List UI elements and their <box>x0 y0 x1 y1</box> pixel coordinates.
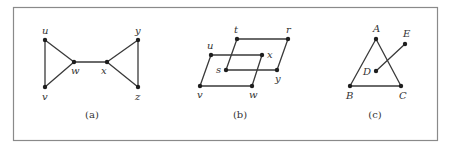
graph-figure: uvwxyz(a) truxsyvw(b) AEDBC(c) <box>0 0 453 149</box>
vertex-v-dot <box>198 84 202 88</box>
vertex-label: A <box>372 23 380 34</box>
vertex-s-dot <box>224 68 228 72</box>
vertex-r-dot <box>286 37 290 41</box>
vertex-w-dot <box>250 84 254 88</box>
edge-v-w <box>45 62 74 87</box>
vertex-x-dot <box>260 53 264 57</box>
edge-x-y <box>107 40 138 62</box>
vertex-label: x <box>267 49 273 60</box>
vertex-label: s <box>216 64 221 75</box>
edge-C-A <box>376 39 401 86</box>
vertex-label: t <box>234 24 239 35</box>
vertex-v-dot <box>43 85 47 89</box>
vertex-label: v <box>42 91 48 102</box>
vertex-B-dot <box>348 84 352 88</box>
vertex-D-dot <box>374 69 378 73</box>
vertex-label: u <box>207 40 213 51</box>
vertex-label: x <box>101 65 107 76</box>
edge-A-B <box>350 39 376 86</box>
panel-caption: (a) <box>85 109 99 120</box>
vertex-t-dot <box>235 37 239 41</box>
vertex-A-dot <box>374 37 378 41</box>
panel-c-graph: AEDBC(c) <box>345 23 411 120</box>
vertex-label: B <box>345 90 353 101</box>
vertex-w-dot <box>72 60 76 64</box>
vertex-label: y <box>274 73 281 84</box>
vertex-label: z <box>134 91 141 102</box>
vertex-label: y <box>134 25 141 36</box>
vertex-C-dot <box>399 84 403 88</box>
panel-caption: (c) <box>368 109 382 120</box>
panel-caption: (b) <box>233 109 247 120</box>
vertex-z-dot <box>136 85 140 89</box>
vertex-label: r <box>286 24 292 35</box>
vertex-u-dot <box>43 38 47 42</box>
panel-b-graph: truxsyvw(b) <box>197 24 292 120</box>
vertex-label: v <box>197 89 203 100</box>
vertex-label: E <box>402 28 411 39</box>
vertex-y-dot <box>275 68 279 72</box>
vertex-x-dot <box>105 60 109 64</box>
panel-a-graph: uvwxyz(a) <box>42 25 141 120</box>
vertex-y-dot <box>136 38 140 42</box>
edge-x-z <box>107 62 138 87</box>
vertex-E-dot <box>403 42 407 46</box>
vertex-label: D <box>362 66 371 77</box>
vertex-label: w <box>71 65 80 76</box>
vertex-u-dot <box>209 53 213 57</box>
vertex-label: u <box>42 25 48 36</box>
edge-u-w <box>45 40 74 62</box>
vertex-label: w <box>249 89 258 100</box>
edge-v-u <box>200 55 211 86</box>
vertex-label: C <box>399 90 407 101</box>
edge-r-y <box>277 39 288 70</box>
